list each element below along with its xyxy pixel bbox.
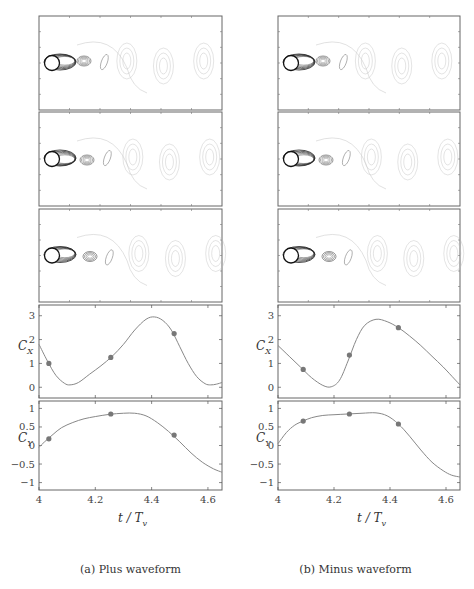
flow-panel-left-2 [39,112,222,206]
xlabel-left: t / Tv [118,511,148,528]
cy-label-left: CY [18,431,33,448]
y-tick-label: 3 [29,310,35,321]
flow-panel-right-1 [278,16,460,110]
y-tick-label: 1 [268,403,274,414]
data-marker [301,367,306,372]
caption-plus-waveform: (a) Plus waveform [12,563,249,576]
data-marker [396,421,401,426]
y-tick-label: −0.5 [11,459,35,470]
y-tick-label: 2 [268,334,274,345]
chart-plus-cy: 44.24.44.6−1−0.500.51 [11,401,222,505]
chart-minus-cy: 44.24.44.6−1−0.500.51 [250,401,460,505]
cylinder [284,56,299,71]
cylinder [45,56,60,71]
y-tick-label: 2 [29,334,35,345]
plot-frame [278,305,460,398]
chart-plus-cx: 0123 [29,305,222,398]
panel-frame [39,209,222,302]
cylinder [45,152,60,167]
flow-panel-left-1 [39,16,222,110]
data-marker [108,355,113,360]
x-tick-label: 4.2 [326,494,342,505]
force-coefficient-plots: 012344.24.44.6−1−0.500.51012344.24.44.6−… [11,305,460,505]
data-marker [46,436,51,441]
x-tick-label: 4.6 [438,494,454,505]
flow-panel-right-2 [278,112,460,206]
y-tick-label: 3 [268,310,274,321]
cylinder [284,152,299,167]
y-tick-label: 0 [268,382,274,393]
x-tick-label: 4.2 [87,494,103,505]
x-tick-label: 4.4 [144,494,160,505]
xlabel-right: t / Tv [357,511,387,528]
y-tick-label: −1 [259,477,274,488]
flow-panel-right-3 [278,209,464,302]
cylinder [45,248,60,263]
figure: 012344.24.44.6−1−0.500.51012344.24.44.6−… [0,0,474,589]
flow-field-panels [39,16,464,302]
data-marker [301,418,306,423]
caption-minus-waveform: (b) Minus waveform [237,563,474,576]
flow-panel-left-3 [39,209,226,302]
plot-frame [39,401,222,490]
chart-minus-cx: 0123 [268,305,460,398]
x-tick-label: 4 [275,494,281,505]
y-tick-label: 0 [29,382,35,393]
x-tick-label: 4.6 [200,494,216,505]
panel-frame [278,209,460,302]
y-tick-label: 1 [268,358,274,369]
data-marker [108,411,113,416]
x-tick-label: 4 [36,494,42,505]
x-tick-label: 4.4 [382,494,398,505]
data-marker [347,411,352,416]
data-marker [172,331,177,336]
y-tick-label: −0.5 [250,459,274,470]
y-tick-label: −1 [20,477,35,488]
cy-label-right: CY [256,431,271,448]
data-marker [172,433,177,438]
panel-frame [39,112,222,206]
data-marker [347,352,352,357]
data-marker [46,361,51,366]
plot-frame [278,401,460,490]
data-marker [396,325,401,330]
y-tick-label: 1 [29,403,35,414]
panel-frame [278,112,460,206]
cylinder [284,248,299,263]
y-tick-label: 1 [29,358,35,369]
